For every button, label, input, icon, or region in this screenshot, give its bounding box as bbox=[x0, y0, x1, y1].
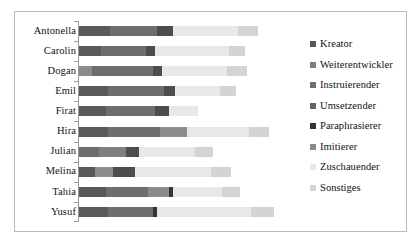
bar-segment bbox=[139, 147, 195, 157]
y-axis-label-tahia: Tahia bbox=[15, 187, 78, 198]
bar-segment bbox=[173, 187, 222, 197]
y-axis-tick bbox=[74, 61, 78, 62]
legend-swatch-icon bbox=[310, 82, 316, 88]
y-axis-label-antonella: Antonella bbox=[15, 26, 78, 37]
bar-segment bbox=[187, 127, 250, 137]
y-axis-tick bbox=[74, 101, 78, 102]
stacked-bar bbox=[79, 26, 303, 36]
bar-segment bbox=[173, 26, 238, 36]
y-axis-tick bbox=[74, 41, 78, 42]
plot-area: AntonellaCarolinDoganEmilFiratHiraJulian… bbox=[15, 12, 303, 231]
bar-segment bbox=[160, 127, 187, 137]
y-axis-tick bbox=[74, 21, 78, 22]
legend-item-kreator: Kreator bbox=[310, 34, 408, 55]
legend-item-paraphrasierer: Paraphrasierer bbox=[310, 116, 408, 137]
stacked-bar bbox=[79, 127, 303, 137]
bar-segment bbox=[95, 167, 113, 177]
stacked-bar bbox=[79, 187, 303, 197]
legend-item-instruierender: Instruierender bbox=[310, 75, 408, 96]
bar-segment bbox=[153, 66, 162, 76]
legend-label: Kreator bbox=[320, 39, 352, 50]
legend-swatch-icon bbox=[310, 185, 316, 191]
bar-segment bbox=[108, 207, 153, 217]
legend-label: Imitierer bbox=[320, 142, 357, 153]
chart-legend: KreatorWeiterentwicklerInstruierenderUms… bbox=[310, 34, 408, 198]
legend-item-sonstiges: Sonstiges bbox=[310, 178, 408, 199]
stacked-bar bbox=[79, 106, 303, 116]
bar-rows: AntonellaCarolinDoganEmilFiratHiraJulian… bbox=[15, 21, 303, 222]
bar-segment bbox=[135, 167, 211, 177]
stacked-bar bbox=[79, 86, 303, 96]
y-axis-label-yusuf: Yusuf bbox=[15, 207, 78, 218]
y-axis-tick bbox=[74, 162, 78, 163]
bar-row: Dogan bbox=[15, 61, 303, 81]
legend-swatch-icon bbox=[310, 144, 316, 150]
y-axis-label-carolin: Carolin bbox=[15, 46, 78, 57]
bar-segment bbox=[148, 187, 168, 197]
bar-segment bbox=[229, 46, 245, 56]
y-axis-tick bbox=[74, 182, 78, 183]
y-axis-label-emil: Emil bbox=[15, 86, 78, 97]
bar-segment bbox=[164, 86, 175, 96]
legend-item-weiterentwickler: Weiterentwickler bbox=[310, 55, 408, 76]
bar-row: Antonella bbox=[15, 21, 303, 41]
y-axis-label-hira: Hira bbox=[15, 126, 78, 137]
y-axis-label-melina: Melina bbox=[15, 166, 78, 177]
bar-segment bbox=[162, 66, 227, 76]
stacked-bar bbox=[79, 46, 303, 56]
y-axis-tick bbox=[74, 202, 78, 203]
bar-segment bbox=[113, 167, 135, 177]
bar-row: Melina bbox=[15, 162, 303, 182]
y-axis-tick bbox=[74, 142, 78, 143]
legend-label: Instruierender bbox=[320, 80, 380, 91]
bar-segment bbox=[92, 66, 152, 76]
bar-segment bbox=[249, 127, 269, 137]
bar-segment bbox=[126, 147, 139, 157]
bar-segment bbox=[108, 127, 160, 137]
y-axis-label-firat: Firat bbox=[15, 106, 78, 117]
y-axis-tick bbox=[74, 81, 78, 82]
bar-segment bbox=[79, 127, 108, 137]
bar-segment bbox=[169, 106, 198, 116]
bar-segment bbox=[211, 167, 231, 177]
legend-label: Sonstiges bbox=[320, 183, 361, 194]
bar-segment bbox=[238, 26, 258, 36]
legend-label: Paraphrasierer bbox=[320, 121, 381, 132]
legend-swatch-icon bbox=[310, 123, 316, 129]
bar-segment bbox=[251, 207, 273, 217]
legend-item-zuschauender: Zuschauender bbox=[310, 157, 408, 178]
bar-segment bbox=[227, 66, 247, 76]
bar-row: Carolin bbox=[15, 41, 303, 61]
legend-label: Umsetzender bbox=[320, 101, 376, 112]
bar-row: Julian bbox=[15, 142, 303, 162]
bar-segment bbox=[79, 207, 108, 217]
bar-row: Hira bbox=[15, 121, 303, 141]
bar-segment bbox=[99, 147, 126, 157]
legend-label: Zuschauender bbox=[320, 162, 380, 173]
legend-swatch-icon bbox=[310, 62, 316, 68]
y-axis-tick bbox=[74, 221, 78, 222]
bar-segment bbox=[155, 106, 168, 116]
bar-segment bbox=[79, 106, 106, 116]
bar-segment bbox=[79, 167, 95, 177]
bar-segment bbox=[108, 86, 164, 96]
bar-segment bbox=[155, 46, 229, 56]
y-axis-label-julian: Julian bbox=[15, 146, 78, 157]
chart-frame: AntonellaCarolinDoganEmilFiratHiraJulian… bbox=[14, 11, 407, 232]
bar-segment bbox=[79, 66, 92, 76]
legend-label: Weiterentwickler bbox=[320, 60, 393, 71]
bar-segment bbox=[79, 26, 110, 36]
y-axis-label-dogan: Dogan bbox=[15, 66, 78, 77]
bar-row: Yusuf bbox=[15, 202, 303, 222]
stacked-bar bbox=[79, 207, 303, 217]
bar-segment bbox=[79, 187, 106, 197]
bar-segment bbox=[101, 46, 146, 56]
y-axis-tick bbox=[74, 121, 78, 122]
bar-segment bbox=[157, 207, 251, 217]
bar-row: Firat bbox=[15, 101, 303, 121]
bar-row: Emil bbox=[15, 81, 303, 101]
legend-item-imitierer: Imitierer bbox=[310, 137, 408, 158]
bar-segment bbox=[79, 147, 99, 157]
bar-segment bbox=[222, 187, 240, 197]
bar-segment bbox=[220, 86, 236, 96]
